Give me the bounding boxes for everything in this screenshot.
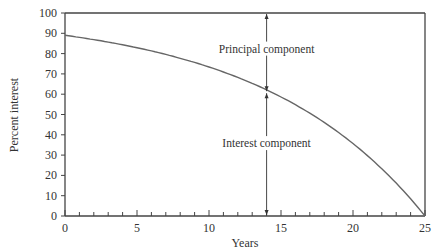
y-tick-label: 60 [45,87,57,101]
y-tick-label: 0 [51,209,57,223]
interest-curve [65,35,425,216]
x-tick-label: 20 [347,221,359,235]
y-tick-label: 30 [45,148,57,162]
x-tick-label: 15 [275,221,287,235]
y-tick-label: 50 [45,108,57,122]
amortization-chart: 0102030405060708090100 0510152025 Princi… [0,0,432,251]
annotations: Principal componentInterest component [217,14,317,215]
y-tick-label: 100 [39,6,57,20]
x-tick-label: 5 [134,221,140,235]
annotation-label: Principal component [219,43,315,56]
y-tick-label: 10 [45,189,57,203]
y-axis-label: Percent interest [7,77,21,152]
annotation-label: Interest component [222,137,311,150]
y-tick-label: 80 [45,47,57,61]
y-tick-label: 90 [45,26,57,40]
x-axis-label: Years [232,236,259,250]
x-tick-label: 0 [62,221,68,235]
y-tick-label: 70 [45,67,57,81]
x-tick-label: 10 [203,221,215,235]
x-tick-label: 25 [419,221,431,235]
x-axis: 0510152025 [62,210,431,235]
y-axis: 0102030405060708090100 [39,6,65,223]
y-tick-label: 20 [45,168,57,182]
y-tick-label: 40 [45,128,57,142]
